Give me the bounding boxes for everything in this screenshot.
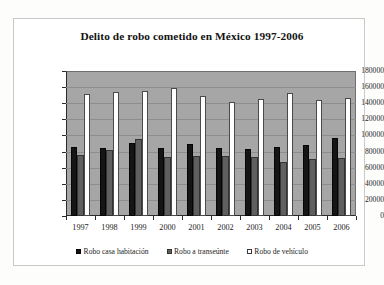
legend-label: Robo de vehículo bbox=[254, 247, 308, 256]
bar-casa bbox=[129, 143, 135, 216]
x-axis-tick-mark bbox=[95, 216, 96, 220]
bar-group bbox=[240, 71, 269, 216]
legend-swatch-vehiculo-icon bbox=[247, 249, 252, 254]
x-axis-tick-label: 2006 bbox=[322, 223, 362, 232]
x-axis-tick-mark bbox=[66, 216, 67, 220]
bar-casa bbox=[274, 147, 280, 216]
bar-group bbox=[298, 71, 327, 216]
bar-group bbox=[182, 71, 211, 216]
x-axis-tick-mark bbox=[356, 216, 357, 220]
bar-transeunte bbox=[222, 156, 228, 216]
legend-item-vehiculo: Robo de vehículo bbox=[247, 247, 308, 256]
x-axis-tick-mark bbox=[240, 216, 241, 220]
bar-group bbox=[211, 71, 240, 216]
bar-casa bbox=[187, 144, 193, 217]
bar-group bbox=[66, 71, 95, 216]
bar-transeunte bbox=[251, 157, 257, 216]
bar-group bbox=[327, 71, 356, 216]
legend-label: Robo casa habitación bbox=[84, 247, 149, 256]
bar-transeunte bbox=[135, 139, 141, 216]
plot-wrapper: 1997199819992000200120022003200420052006 bbox=[66, 71, 356, 216]
legend-item-casa: Robo casa habitación bbox=[76, 247, 148, 256]
bar-casa bbox=[158, 148, 164, 216]
bar-casa bbox=[245, 149, 251, 216]
x-axis-tick-mark bbox=[182, 216, 183, 220]
bar-casa bbox=[216, 148, 222, 216]
bar-vehiculo bbox=[142, 91, 148, 216]
bar-vehiculo bbox=[171, 88, 177, 216]
x-axis-tick-mark bbox=[124, 216, 125, 220]
chart-legend: Robo casa habitaciónRobo a transeúnteRob… bbox=[0, 247, 384, 256]
bar-casa bbox=[71, 147, 77, 216]
bar-vehiculo bbox=[345, 98, 351, 216]
legend-label: Robo a transeúnte bbox=[174, 247, 229, 256]
bar-vehiculo bbox=[229, 102, 235, 216]
x-axis-tick-mark bbox=[298, 216, 299, 220]
legend-item-transeunte: Robo a transeúnte bbox=[167, 247, 229, 256]
bar-vehiculo bbox=[316, 100, 322, 216]
bar-transeunte bbox=[309, 159, 315, 216]
bar-vehiculo bbox=[84, 94, 90, 216]
bar-transeunte bbox=[193, 156, 199, 216]
bar-casa bbox=[332, 138, 338, 216]
chart-title: Delito de robo cometido en México 1997-2… bbox=[0, 30, 384, 42]
x-axis-tick-mark bbox=[269, 216, 270, 220]
bar-group bbox=[269, 71, 298, 216]
bar-casa bbox=[303, 145, 309, 216]
bar-vehiculo bbox=[113, 92, 119, 216]
bar-transeunte bbox=[106, 150, 112, 216]
legend-swatch-transeunte-icon bbox=[167, 249, 172, 254]
bar-vehiculo bbox=[258, 99, 264, 216]
bar-group bbox=[124, 71, 153, 216]
bar-transeunte bbox=[77, 155, 83, 216]
legend-swatch-casa-icon bbox=[76, 249, 81, 254]
x-axis-tick-mark bbox=[153, 216, 154, 220]
chart-page: Delito de robo cometido en México 1997-2… bbox=[0, 0, 384, 285]
x-axis-tick-mark bbox=[327, 216, 328, 220]
bar-vehiculo bbox=[200, 96, 206, 216]
bar-transeunte bbox=[338, 158, 344, 216]
bar-group bbox=[153, 71, 182, 216]
x-axis-tick-mark bbox=[211, 216, 212, 220]
bar-transeunte bbox=[280, 162, 286, 216]
bar-group bbox=[95, 71, 124, 216]
bar-vehiculo bbox=[287, 93, 293, 216]
bar-casa bbox=[100, 148, 106, 216]
bar-transeunte bbox=[164, 157, 170, 216]
